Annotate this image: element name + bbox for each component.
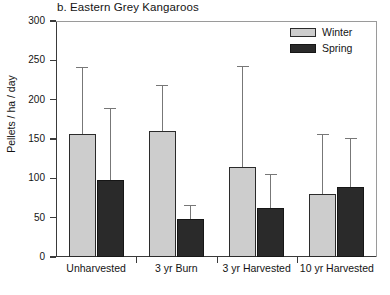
error-bar-stem	[162, 85, 163, 131]
error-bar-cap	[76, 67, 88, 68]
plot-frame-top	[56, 21, 377, 22]
bar-spring-2	[257, 208, 284, 257]
y-axis-tick-label: 250	[15, 54, 45, 65]
legend-swatch-spring-icon	[290, 44, 316, 53]
y-axis-tick	[50, 20, 56, 21]
error-bar-stem	[110, 108, 111, 180]
y-axis-tick-label: 50	[15, 212, 45, 223]
y-axis-tick-label: 200	[15, 94, 45, 105]
y-axis-tick	[50, 138, 56, 139]
y-axis-tick-label: 150	[15, 133, 45, 144]
error-bar-stem	[190, 205, 191, 219]
error-bar-cap	[104, 108, 116, 109]
legend-swatch-winter-icon	[290, 28, 316, 37]
y-axis-tick	[50, 178, 56, 179]
error-bar-cap	[345, 138, 357, 139]
error-bar-stem	[242, 66, 243, 167]
error-bar-stem	[350, 138, 351, 187]
bar-spring-3	[337, 187, 364, 257]
bar-winter-1	[149, 131, 176, 257]
chart-legend: Winter Spring	[290, 26, 352, 54]
chart-figure: b. Eastern Grey Kangaroos Pellets / ha /…	[0, 0, 390, 295]
y-axis-tick-label: 100	[15, 172, 45, 183]
y-axis-tick-label: 300	[15, 15, 45, 26]
y-axis-tick	[50, 99, 56, 100]
bar-spring-0	[97, 180, 124, 257]
error-bar-cap	[237, 66, 249, 67]
bar-winter-0	[69, 134, 96, 257]
legend-item-winter: Winter	[290, 26, 352, 38]
error-bar-stem	[82, 67, 83, 135]
error-bar-stem	[322, 134, 323, 194]
y-axis-tick-label: 0	[15, 251, 45, 262]
y-axis-tick	[50, 256, 56, 257]
bar-winter-3	[309, 194, 336, 257]
legend-item-spring: Spring	[290, 42, 352, 54]
error-bar-cap	[156, 85, 168, 86]
y-axis-tick	[50, 60, 56, 61]
bar-spring-1	[177, 219, 204, 257]
error-bar-stem	[270, 174, 271, 209]
legend-label-spring: Spring	[322, 42, 352, 54]
error-bar-cap	[317, 134, 329, 135]
plot-frame-right	[376, 21, 377, 257]
error-bar-cap	[265, 174, 277, 175]
x-axis-category-label: 10 yr Harvested	[287, 262, 387, 274]
error-bar-cap	[184, 205, 196, 206]
bar-winter-2	[229, 167, 256, 257]
legend-label-winter: Winter	[322, 26, 352, 38]
y-axis-tick	[50, 217, 56, 218]
y-axis-label: Pellets / ha / day	[5, 54, 17, 174]
page-title: b. Eastern Grey Kangaroos	[57, 1, 199, 13]
